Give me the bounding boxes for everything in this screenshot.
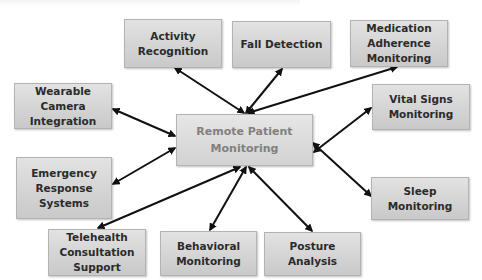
arrow-wearable-camera bbox=[113, 109, 175, 136]
node-posture-analysis: Posture Analysis bbox=[264, 232, 361, 276]
node-remote-patient-monitoring: Remote Patient Monitoring bbox=[176, 114, 313, 166]
node-sleep-monitoring: Sleep Monitoring bbox=[371, 177, 469, 220]
node-emergency-response-systems: Emergency Response Systems bbox=[16, 157, 112, 219]
arrow-posture bbox=[249, 167, 312, 231]
arrow-telehealth bbox=[98, 167, 240, 228]
node-vital-signs-monitoring: Vital Signs Monitoring bbox=[372, 84, 470, 130]
arrow-vital-signs bbox=[314, 108, 371, 152]
node-fall-detection: Fall Detection bbox=[232, 21, 331, 68]
arrow-fall-detection bbox=[246, 69, 282, 113]
arrow-emergency-response bbox=[113, 148, 175, 184]
arrow-activity-recognition bbox=[175, 68, 244, 113]
node-wearable-camera-integration: Wearable Camera Integration bbox=[14, 83, 112, 129]
node-behavioral-monitoring: Behavioral Monitoring bbox=[160, 231, 257, 276]
node-telehealth-consultation-support: Telehealth Consultation Support bbox=[48, 229, 146, 276]
node-activity-recognition: Activity Recognition bbox=[124, 19, 222, 68]
arrow-behavioral bbox=[210, 167, 246, 230]
node-medication-adherence-monitoring: Medication Adherence Monitoring bbox=[350, 20, 448, 67]
arrow-sleep-monitoring bbox=[313, 143, 371, 196]
